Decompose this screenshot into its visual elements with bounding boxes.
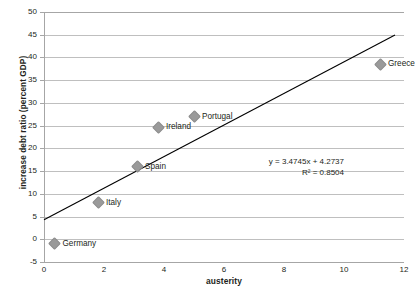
regression-equation: y = 3.4745x + 4.2737 xyxy=(224,156,344,167)
y-axis-tick-label: 30 xyxy=(0,98,37,107)
regression-annotation: y = 3.4745x + 4.2737 R² = 0.8504 xyxy=(224,156,344,178)
x-axis-tick-label: 0 xyxy=(29,265,59,274)
data-point-label: Germany xyxy=(63,239,97,248)
data-point-label: Greece xyxy=(388,59,415,68)
data-point-label: Ireland xyxy=(166,122,191,131)
x-axis-title: austerity xyxy=(44,276,404,286)
y-axis-tick-label: 35 xyxy=(0,75,37,84)
data-point-label: Spain xyxy=(145,162,166,171)
y-axis-tick-label: 10 xyxy=(0,189,37,198)
x-axis-tick-label: 10 xyxy=(329,265,359,274)
scatter-chart: increase debt ratio (percent GDP) -50510… xyxy=(0,0,420,300)
y-axis-tick-label: 0 xyxy=(0,234,37,243)
y-axis-tick-label: 45 xyxy=(0,30,37,39)
x-axis-line xyxy=(44,262,404,263)
y-axis-tick-label: 40 xyxy=(0,52,37,61)
x-axis-tick-label: 8 xyxy=(269,265,299,274)
regression-r-squared: R² = 0.8504 xyxy=(224,167,344,178)
plot-area xyxy=(44,12,404,262)
data-point-label: Portugal xyxy=(202,112,233,121)
x-axis-tick-label: 2 xyxy=(89,265,119,274)
y-axis-tick-label: 25 xyxy=(0,121,37,130)
data-point-label: Italy xyxy=(106,198,121,207)
y-axis-tick-label: 50 xyxy=(0,7,37,16)
x-axis-tick-label: 6 xyxy=(209,265,239,274)
y-axis-tick-label: 15 xyxy=(0,166,37,175)
y-axis-tick-label: 5 xyxy=(0,212,37,221)
x-axis-tick-label: 12 xyxy=(389,265,419,274)
x-axis-tick-label: 4 xyxy=(149,265,179,274)
y-axis-tick-label: 20 xyxy=(0,143,37,152)
